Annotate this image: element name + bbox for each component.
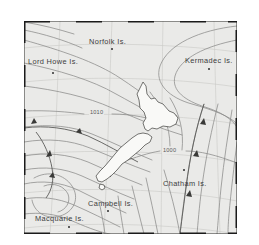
place-label-campbell-is: Campbell Is. [88,200,133,207]
isobar-label-1010: 1010 [89,110,104,116]
place-label-norfolk-is: Norfolk Is. [89,38,126,45]
station-dot-chatham-is [183,169,185,171]
place-label-chatham-is: Chatham Is. [163,180,207,187]
place-label-kermadec-is: Kermadec Is. [185,57,233,64]
station-dot-kermadec-is [208,68,210,70]
place-label-lord-howe-is: Lord Howe Is. [28,58,78,65]
station-dot-macquarie-is [68,226,70,228]
weather-map-canvas [0,0,259,245]
weather-map: Norfolk Is. Lord Howe Is. Kermadec Is. C… [0,0,259,245]
isobar-label-1000: 1000 [162,148,177,154]
station-dot-lord-howe-is [52,72,54,74]
station-dot-campbell-is [107,210,109,212]
station-dot-norfolk-is [111,48,113,50]
place-label-macquarie-is: Macquarie Is. [35,215,84,222]
